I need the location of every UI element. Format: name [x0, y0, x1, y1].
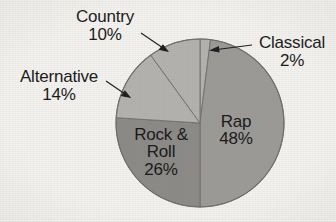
- slice-label-alternative-value: 14%: [6, 86, 112, 103]
- slice-label-country: Country 10%: [66, 8, 144, 44]
- slice-label-rap: Rap 48%: [208, 113, 264, 148]
- slice-label-rap-name: Rap: [208, 113, 264, 130]
- slice-label-classical: Classical 2%: [250, 34, 334, 70]
- slice-label-alternative: Alternative 14%: [6, 68, 112, 104]
- slice-label-alternative-name: Alternative: [6, 68, 112, 85]
- slice-label-rock-and-roll-name-line2: Roll: [122, 143, 200, 160]
- pie-chart-figure: Country 10% Classical 2% Alternative 14%…: [0, 0, 336, 222]
- slice-label-classical-name: Classical: [250, 34, 334, 51]
- slice-label-rock-and-roll-value: 26%: [122, 161, 200, 178]
- slice-label-country-name: Country: [66, 8, 144, 25]
- slice-label-rock-and-roll: Rock & Roll 26%: [122, 126, 200, 178]
- leader-arrow-country: [141, 33, 168, 51]
- slice-label-rock-and-roll-name-line1: Rock &: [122, 126, 200, 143]
- slice-label-country-value: 10%: [66, 26, 144, 43]
- slice-label-rap-value: 48%: [208, 130, 264, 147]
- slice-label-classical-value: 2%: [250, 52, 334, 69]
